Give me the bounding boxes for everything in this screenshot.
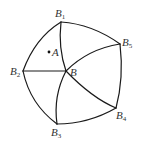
edge-b1-b5 [61,22,120,44]
label-a: A [51,46,59,58]
edge-b5-b4 [116,44,121,108]
label-b3: B3 [51,126,62,140]
edge-b3-b2 [23,71,57,124]
label-b1: B1 [55,7,66,21]
label-b2: B2 [10,65,21,79]
label-b5: B5 [122,36,133,50]
pentagon-diagram: B1 B5 B4 B3 B2 B A [0,0,141,149]
label-b: B [70,66,77,78]
point-a-marker [48,51,51,54]
edge-b-b3 [56,71,66,124]
label-b4: B4 [116,109,127,123]
edge-b4-b3 [57,108,116,124]
edge-b-b1 [60,22,66,71]
